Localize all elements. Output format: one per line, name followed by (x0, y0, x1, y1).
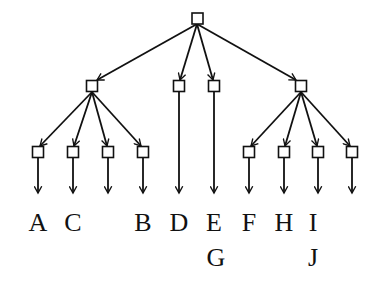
leaf-node (244, 147, 255, 158)
leaf-node (347, 147, 358, 158)
leaf-node (279, 147, 290, 158)
label-j: J (308, 243, 318, 272)
mid-node-4 (296, 81, 307, 92)
tree-diagram: A C B D E G F H I J (0, 0, 372, 284)
root-node (192, 13, 203, 24)
mid-node-2 (174, 81, 185, 92)
mid-node-3 (209, 81, 220, 92)
label-d: D (170, 208, 189, 237)
leaf-node (33, 147, 44, 158)
label-e: E (206, 208, 222, 237)
leaf-down-arrows (38, 158, 352, 193)
label-b: B (134, 208, 151, 237)
root-edges (97, 24, 296, 80)
label-h: H (275, 208, 294, 237)
labels: A C B D E G F H I J (29, 208, 318, 272)
m4-edges (251, 92, 350, 146)
label-a: A (29, 208, 48, 237)
label-i: I (309, 208, 318, 237)
label-c: C (64, 208, 81, 237)
label-g: G (207, 243, 226, 272)
edge-root-m4 (197, 24, 296, 80)
label-f: F (242, 208, 256, 237)
mid-node-1 (87, 81, 98, 92)
leaf-node (138, 147, 149, 158)
leaf-node (68, 147, 79, 158)
m1-edges (40, 92, 141, 146)
leaf-node (313, 147, 324, 158)
leaf-node (103, 147, 114, 158)
edge-m1-l1 (40, 92, 92, 146)
